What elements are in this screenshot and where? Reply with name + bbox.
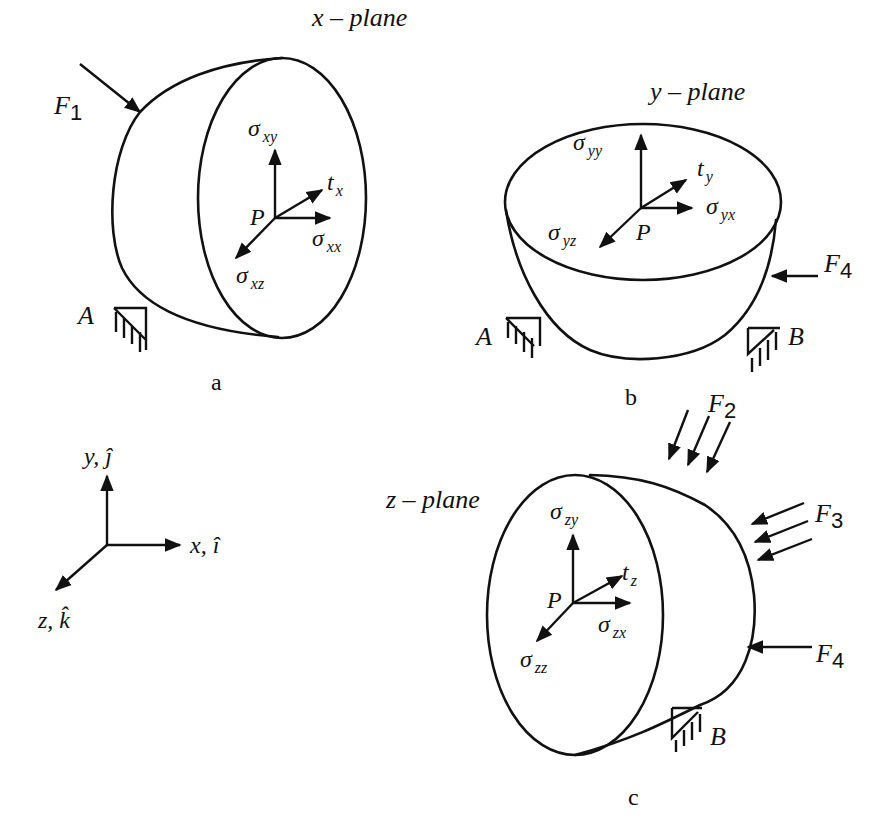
stress-label-sxy: σxy bbox=[248, 115, 278, 146]
caption-b: b bbox=[625, 384, 637, 410]
support-label-a: A bbox=[76, 301, 94, 330]
stress-label-syx: σyx bbox=[706, 193, 735, 224]
stress-label-sxz: σxz bbox=[236, 262, 265, 292]
stress-label-syz: σyz bbox=[548, 219, 577, 250]
force-arrow-f3-1 bbox=[752, 503, 804, 524]
point-label-p-c: P bbox=[546, 587, 562, 613]
traction-label-ty: ty bbox=[697, 155, 714, 186]
cut-face-y-plane bbox=[505, 124, 781, 280]
support-label-a-b: A bbox=[474, 322, 492, 351]
panel-c bbox=[487, 410, 812, 755]
traction-label-tx: tx bbox=[327, 169, 343, 199]
force-arrow-f2-2 bbox=[688, 416, 709, 465]
traction-arrow-tz bbox=[573, 576, 622, 603]
stress-label-szy: σzy bbox=[550, 498, 579, 529]
caption-a: a bbox=[211, 369, 222, 395]
stress-label-szz: σzz bbox=[520, 646, 548, 676]
z-axis-arrow bbox=[56, 545, 107, 590]
stress-label-szx: σzx bbox=[598, 611, 626, 641]
force-label-f1: F1 bbox=[53, 91, 82, 125]
support-label-b-b: B bbox=[788, 322, 804, 351]
force-arrow-f3-3 bbox=[758, 539, 812, 560]
plane-label-b: y – plane bbox=[647, 77, 745, 106]
point-label-p-a: P bbox=[249, 204, 265, 230]
force-label-f3: F3 bbox=[814, 499, 843, 533]
caption-c: c bbox=[628, 784, 639, 810]
traction-label-tz: tz bbox=[622, 559, 638, 589]
coordinate-axes bbox=[56, 476, 180, 590]
support-b-icon-c bbox=[672, 708, 702, 752]
support-b-icon-b bbox=[748, 328, 780, 372]
stress-diagram: x – plane F1 σxy tx P σxx σxz A a y – pl… bbox=[0, 0, 887, 823]
panel-b bbox=[505, 124, 818, 372]
stress-label-syy: σyy bbox=[573, 129, 603, 160]
support-a-icon bbox=[114, 308, 146, 352]
force-arrow-f1 bbox=[80, 64, 140, 112]
force-label-f2: F2 bbox=[707, 389, 736, 423]
force-label-f4-b: F4 bbox=[823, 249, 852, 283]
force-label-f4-c: F4 bbox=[815, 639, 844, 673]
force-arrow-f3-2 bbox=[755, 521, 808, 542]
plane-label-a: x – plane bbox=[311, 3, 407, 32]
z-axis-label: z, k̂ bbox=[37, 606, 70, 633]
support-label-b-c: B bbox=[710, 722, 726, 751]
stress-arrow-syz bbox=[600, 208, 641, 247]
stress-label-sxx: σxx bbox=[312, 225, 341, 255]
force-arrow-f2-3 bbox=[707, 422, 730, 472]
point-label-p-b: P bbox=[635, 219, 651, 245]
plane-label-c: z – plane bbox=[385, 485, 480, 514]
traction-arrow-tx bbox=[275, 190, 322, 218]
support-a-icon-b bbox=[506, 318, 540, 358]
panel-a bbox=[80, 58, 366, 352]
x-axis-label: x, î bbox=[189, 532, 221, 558]
y-axis-label: y, ĵ bbox=[82, 443, 113, 469]
traction-arrow-ty bbox=[641, 180, 686, 208]
force-arrow-f2-1 bbox=[669, 410, 688, 459]
